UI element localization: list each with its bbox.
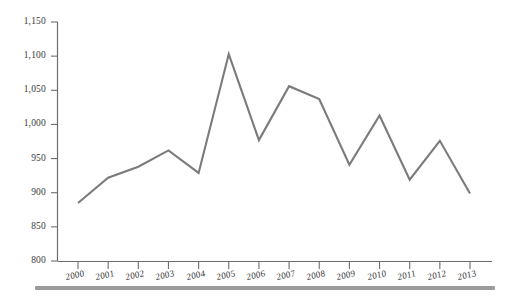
y-axis-tick-label: 800 [4, 255, 46, 265]
y-axis-tick-label: 950 [4, 153, 46, 163]
chart-plot-area [0, 0, 510, 301]
y-axis-tick-label: 1,100 [4, 50, 46, 60]
y-axis-tick-label: 850 [4, 221, 46, 231]
y-axis-tick-label: 1,050 [4, 84, 46, 94]
y-axis-tick-label: 900 [4, 187, 46, 197]
line-chart: 8008509009501,0001,0501,1001,150 2000200… [0, 0, 510, 301]
bottom-rule [35, 286, 495, 290]
y-axis-tick-label: 1,000 [4, 118, 46, 128]
y-axis-tick-label: 1,150 [4, 16, 46, 26]
y-axis-ticks [51, 22, 58, 261]
data-series-line [78, 54, 470, 203]
